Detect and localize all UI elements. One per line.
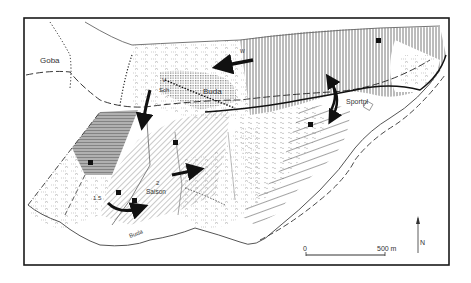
building-marker [376,38,381,43]
map-figure: ∩ [0,0,471,283]
building-marker [132,198,137,203]
label-zone-number: 1.5 [93,195,102,201]
label-goba: Goba [40,56,60,65]
land-use-map: ∩ [0,0,471,283]
label-v: V [162,77,166,83]
label-w: W [240,48,245,54]
building-marker [88,160,93,165]
building-marker [116,190,121,195]
label-sportpl: Sportpl [346,98,369,106]
label-sch: Sch [159,87,169,93]
north-label: N [420,239,425,246]
scale-end-label: 500 m [377,245,397,252]
building-marker [173,140,178,145]
pasture-texture-ne [400,55,435,85]
building-marker [308,122,313,127]
label-saison: Saison [146,188,166,195]
label-buda-village: Buda [203,87,222,96]
scale-start-label: 0 [303,245,307,252]
